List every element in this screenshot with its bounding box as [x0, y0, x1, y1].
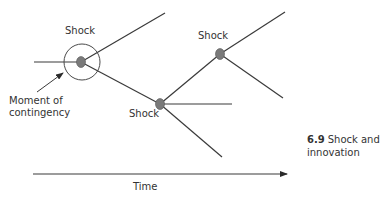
contingency-label: contingency: [9, 106, 70, 119]
branch-line: [160, 54, 220, 104]
branch-line: [81, 13, 165, 62]
branch-line: [220, 54, 283, 98]
branch-line: [81, 62, 160, 104]
shock-node-3: [216, 49, 225, 60]
branch-line: [220, 12, 285, 54]
figure-number: 6.9: [307, 134, 325, 145]
figure-caption: 6.9Shock and innovation: [307, 133, 380, 159]
branch-line: [160, 104, 222, 157]
caption-text-line2: innovation: [307, 146, 380, 159]
time-axis-label: Time: [133, 180, 157, 193]
shock-label-3: Shock: [198, 29, 228, 42]
shock-label-2: Shock: [129, 107, 159, 120]
pointer-arrow: [37, 73, 63, 92]
shock-label-1: Shock: [65, 24, 95, 37]
shock-node-1: [77, 57, 86, 68]
caption-text-line1: Shock and: [328, 134, 380, 145]
